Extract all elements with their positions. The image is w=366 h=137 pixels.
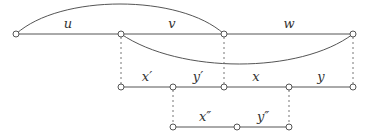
top-node-3 <box>350 31 356 37</box>
middle-node-4 <box>350 84 356 90</box>
middle-node-2 <box>221 84 227 90</box>
label-y-double-prime: y″ <box>256 109 269 124</box>
middle-node-0 <box>118 84 124 90</box>
label-w: w <box>283 16 294 31</box>
top-node-0 <box>13 31 19 37</box>
middle-node-1 <box>170 84 176 90</box>
label-x-double-prime: x″ <box>199 109 211 124</box>
path-decomposition-diagram: u v w x′ y′ x y x″ y″ <box>0 0 366 137</box>
bottom-node-1 <box>234 124 240 130</box>
middle-node-3 <box>286 84 292 90</box>
top-node-2 <box>221 31 227 37</box>
bottom-node-0 <box>170 124 176 130</box>
label-x: x <box>252 69 260 84</box>
label-x-prime: x′ <box>142 69 152 84</box>
label-y: y <box>316 69 325 84</box>
arc-v-w <box>121 34 353 64</box>
bottom-node-2 <box>286 124 292 130</box>
label-v: v <box>168 16 176 31</box>
label-u: u <box>64 16 72 31</box>
arc-u-v <box>16 4 224 34</box>
top-node-1 <box>118 31 124 37</box>
label-y-prime: y′ <box>192 69 203 84</box>
